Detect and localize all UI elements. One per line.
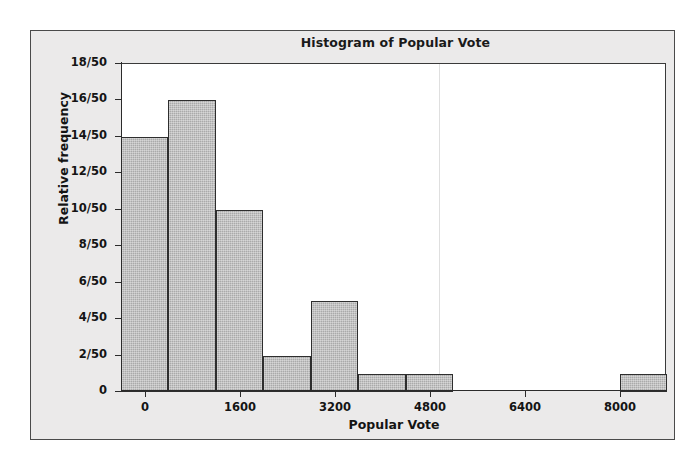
x-axis-line (121, 390, 667, 391)
histogram-bar (263, 356, 310, 392)
y-axis-tick-label: 6/50 (47, 274, 107, 288)
x-axis-tick-label: 6400 (495, 400, 555, 414)
y-axis-tick-label: 4/50 (47, 310, 107, 324)
x-axis-tick (240, 391, 241, 397)
scan-artifact-strip (0, 0, 695, 26)
x-axis-tick-label: 8000 (590, 400, 650, 414)
y-axis-tick (115, 136, 121, 137)
y-axis-tick (115, 99, 121, 100)
x-axis-tick (525, 391, 526, 397)
y-axis-tick (115, 318, 121, 319)
x-axis-tick (145, 391, 146, 397)
y-axis-tick-label: 0 (47, 383, 107, 397)
plot-area (121, 63, 666, 391)
y-axis-tick (115, 355, 121, 356)
figure-panel: Histogram of Popular Vote 02/504/506/508… (30, 30, 675, 440)
x-axis-title: Popular Vote (121, 417, 667, 432)
x-axis-tick-label: 1600 (210, 400, 270, 414)
x-axis-tick-label: 4800 (400, 400, 460, 414)
y-axis-tick (115, 63, 121, 64)
y-axis-line (121, 62, 122, 391)
chart-title: Histogram of Popular Vote (31, 35, 676, 50)
x-axis-tick (620, 391, 621, 397)
y-axis-tick (115, 172, 121, 173)
y-axis-tick (115, 391, 121, 392)
y-axis-title: Relative frequency (56, 59, 71, 259)
histogram-bar (121, 137, 168, 392)
y-axis-tick (115, 209, 121, 210)
histogram-bar (216, 210, 263, 392)
histogram-bar (168, 100, 215, 392)
x-axis-tick (430, 391, 431, 397)
y-axis-tick (115, 282, 121, 283)
y-axis-tick (115, 245, 121, 246)
x-axis-tick-label: 3200 (305, 400, 365, 414)
x-axis-tick (335, 391, 336, 397)
histogram-bar (311, 301, 358, 392)
scan-fold-line (439, 64, 440, 391)
x-axis-tick-label: 0 (115, 400, 175, 414)
y-axis-tick-label: 2/50 (47, 347, 107, 361)
